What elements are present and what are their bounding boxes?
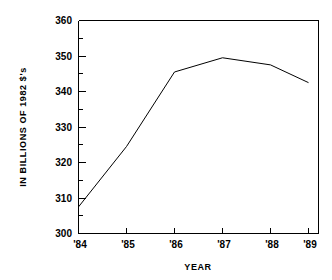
y-axis-major-ticks <box>79 21 86 234</box>
x-axis-label-85: '85 <box>121 239 135 250</box>
data-series-line <box>79 58 309 207</box>
x-axis-tick-labels: '84 '85 '86 '87 '88 '89 <box>73 239 317 250</box>
y-axis-label-360: 360 <box>55 15 72 26</box>
y-axis-label-320: 320 <box>55 157 72 168</box>
y-axis-label-350: 350 <box>55 51 72 62</box>
x-axis-label-89: '89 <box>303 239 317 250</box>
y-axis-label-330: 330 <box>55 122 72 133</box>
plot-border-top-right <box>79 21 319 234</box>
plot-axes-left-bottom <box>79 21 319 234</box>
y-axis-label-310: 310 <box>55 193 72 204</box>
x-axis-label-88: '88 <box>265 239 279 250</box>
y-axis-label-300: 300 <box>55 228 72 239</box>
plot-frame <box>79 21 319 234</box>
x-axis-ticks <box>79 228 309 234</box>
line-chart-figure: 360 350 340 330 320 310 300 '84 '85 '86 … <box>0 0 332 280</box>
x-axis-title: YEAR <box>184 262 211 272</box>
x-axis-label-87: '87 <box>217 239 231 250</box>
x-axis-label-84: '84 <box>73 239 87 250</box>
x-axis-label-86: '86 <box>169 239 183 250</box>
y-axis-title: IN BILLIONS OF 1982 $'s <box>18 67 28 186</box>
y-axis-label-340: 340 <box>55 86 72 97</box>
chart-canvas: 360 350 340 330 320 310 300 '84 '85 '86 … <box>0 0 332 280</box>
y-axis-tick-labels: 360 350 340 330 320 310 300 <box>55 15 72 239</box>
